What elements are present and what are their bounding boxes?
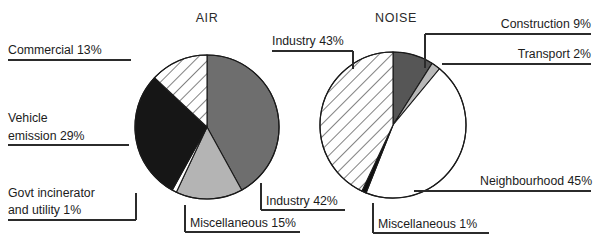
chart-title-noise: NOISE: [375, 11, 417, 25]
pie-slices-air: [135, 55, 279, 199]
callout-label-noise-industry: Industry 43%: [272, 34, 344, 48]
callout-label-air-govt-2: and utility 1%: [8, 203, 81, 217]
callout-label-air-govt-1: Govt incinerator: [8, 186, 95, 200]
callout-label-noise-misc: Miscellaneous 1%: [378, 217, 477, 231]
callout-label-noise-construction: Construction 9%: [501, 17, 591, 31]
pollution-pie-figure: AIR NOISE Commercial 13%Vehicleemission …: [0, 0, 598, 249]
callout-label-noise-transport: Transport 2%: [518, 47, 591, 61]
callout-label-air-commercial: Commercial 13%: [8, 43, 102, 57]
callout-label-air-vehicle-1: Vehicle: [8, 111, 48, 125]
callout-label-air-vehicle-2: emission 29%: [8, 129, 85, 143]
callout-label-air-misc: Miscellaneous 15%: [190, 216, 296, 230]
chart-title-air: AIR: [196, 11, 219, 25]
pie-slices-noise: [320, 52, 466, 198]
callout-label-air-industry: Industry 42%: [266, 194, 338, 208]
callout-label-noise-neighbourhood: Neighbourhood 45%: [480, 174, 592, 188]
